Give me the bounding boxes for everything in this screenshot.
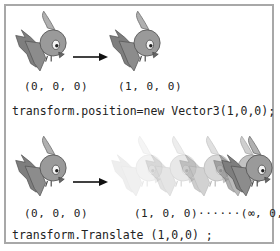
- bird-start-icon: [12, 8, 68, 76]
- start-position-label: (0, 0, 0): [24, 80, 88, 93]
- bird-end-icon: [218, 133, 274, 201]
- bird-end-icon: [106, 8, 162, 76]
- translate-code: transform.Translate (1,0,0) ;: [12, 228, 213, 242]
- position-code: transform.position=new Vector3(1,0,0);: [12, 104, 275, 118]
- start-position-label: (0, 0, 0): [24, 207, 88, 220]
- end-position-label: (1, 0, 0)······(∞, 0, 0): [134, 207, 280, 220]
- arrow-right-icon: [73, 51, 109, 63]
- end-position-label: (1, 0, 0): [118, 80, 182, 93]
- bird-start-icon: [12, 133, 68, 201]
- arrow-right-icon: [73, 176, 109, 188]
